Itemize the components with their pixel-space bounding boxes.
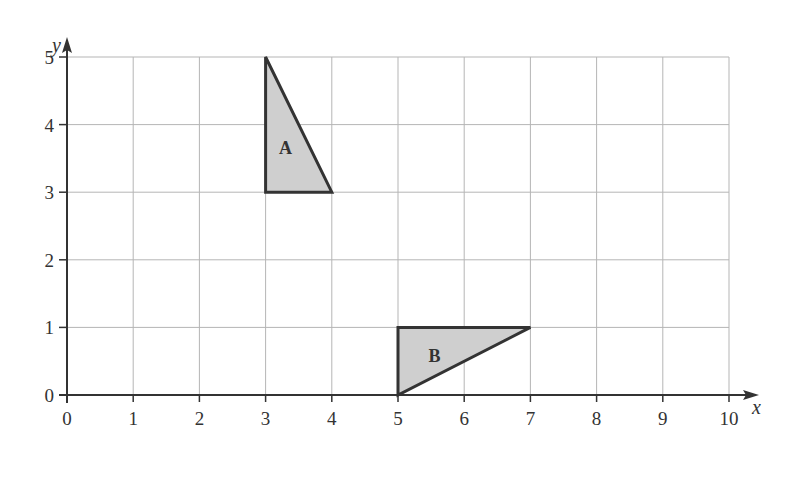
x-tick-label: 2 xyxy=(195,408,205,429)
x-tick-label: 9 xyxy=(658,408,668,429)
coordinate-plane: AB 012345678910012345 x y xyxy=(0,0,794,482)
x-tick-label: 10 xyxy=(720,408,739,429)
shape-label-a: A xyxy=(279,138,292,158)
x-tick-label: 7 xyxy=(526,408,536,429)
shape-label-b: B xyxy=(428,346,440,366)
x-tick-label: 6 xyxy=(459,408,469,429)
x-tick-label: 0 xyxy=(62,408,72,429)
x-tick-label: 5 xyxy=(393,408,403,429)
y-axis-label: y xyxy=(50,34,61,57)
y-tick-label: 3 xyxy=(45,182,55,203)
x-tick-label: 3 xyxy=(261,408,271,429)
tick-labels: 012345678910012345 xyxy=(45,47,739,429)
y-tick-label: 4 xyxy=(45,115,55,136)
coordinate-grid-figure: AB 012345678910012345 x y xyxy=(0,0,794,482)
x-axis-label: x xyxy=(751,396,761,418)
y-tick-label: 0 xyxy=(45,385,55,406)
x-tick-label: 1 xyxy=(128,408,138,429)
x-tick-label: 4 xyxy=(327,408,337,429)
y-tick-label: 1 xyxy=(45,317,55,338)
y-tick-label: 2 xyxy=(45,250,55,271)
x-tick-label: 8 xyxy=(592,408,602,429)
